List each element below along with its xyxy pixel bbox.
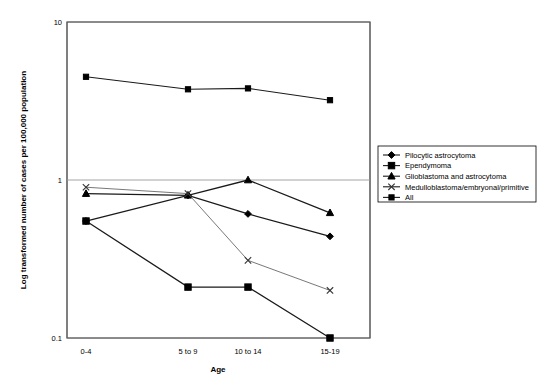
y-axis-tick-labels: 1010.1 [52, 18, 62, 343]
series-line [86, 221, 330, 338]
data-point-marker [185, 284, 191, 290]
data-point-marker [83, 74, 88, 79]
x-tick-label: 0-4 [81, 347, 92, 356]
x-tick-label: 15-19 [320, 347, 339, 356]
data-point-marker [327, 98, 332, 103]
data-point-marker [245, 257, 251, 263]
series-all [83, 74, 332, 103]
data-series-layer [82, 74, 333, 341]
legend-marker-icon [389, 195, 394, 200]
legend-item-medulloblastoma-embryonal-primitive[interactable]: Medulloblastoma/embryonal/primitive [383, 183, 529, 192]
data-point-marker [327, 233, 334, 240]
legend-item-label: All [405, 193, 414, 202]
data-point-marker [245, 284, 251, 290]
x-tick-label: 5 to 9 [179, 347, 198, 356]
y-tick-label: 0.1 [52, 334, 62, 343]
data-point-marker [244, 176, 251, 183]
chart-container: 1010.1 0-45 to 910 to 1415-19 Age Log tr… [0, 0, 540, 384]
series-glioblastoma-and-astrocytoma [82, 176, 333, 215]
x-tick-label: 10 to 14 [234, 347, 261, 356]
legend: Pilocytic astrocytomaEpendymomaGlioblast… [378, 146, 536, 202]
y-tick-label: 10 [54, 18, 62, 27]
x-axis-tick-labels: 0-45 to 910 to 1415-19 [81, 347, 340, 356]
data-point-marker [327, 287, 333, 293]
legend-item-ependymoma[interactable]: Ependymoma [383, 161, 452, 170]
line-chart: 1010.1 0-45 to 910 to 1415-19 Age Log tr… [0, 0, 540, 384]
series-line [86, 180, 330, 213]
data-point-marker [245, 86, 250, 91]
series-line [86, 77, 330, 100]
series-ependymoma [83, 218, 333, 341]
series-medulloblastoma-embryonal-primitive [83, 184, 333, 294]
legend-item-label: Ependymoma [405, 161, 452, 170]
legend-item-label: Glioblastoma and astrocytoma [405, 172, 507, 181]
x-axis-title: Age [210, 365, 226, 374]
data-point-marker [83, 218, 89, 224]
data-point-marker [185, 87, 190, 92]
data-point-marker [245, 211, 252, 218]
legend-marker-icon [388, 162, 394, 168]
y-axis-title: Log transformed number of cases per 100,… [19, 71, 28, 289]
legend-item-label: Pilocytic astrocytoma [405, 151, 476, 160]
data-point-marker [327, 335, 333, 341]
series-line [86, 187, 330, 290]
legend-item-label: Medulloblastoma/embryonal/primitive [405, 183, 529, 192]
y-tick-label: 1 [58, 176, 62, 185]
gridlines [67, 22, 370, 338]
